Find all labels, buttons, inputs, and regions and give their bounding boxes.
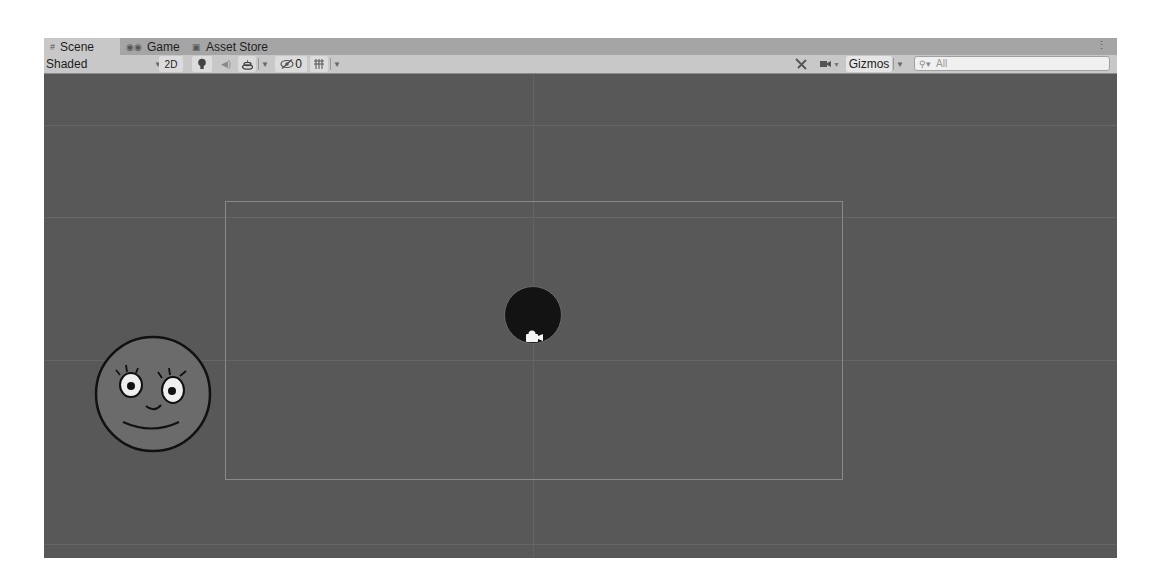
toggle-2d-label: 2D — [165, 59, 178, 70]
grid-line — [44, 125, 1117, 126]
scene-window: # Scene ◉◉ Game ▣ Asset Store ⋮ Shaded ▼… — [44, 38, 1117, 558]
scene-viewport[interactable] — [44, 74, 1117, 558]
gizmos-label: Gizmos — [849, 57, 890, 71]
more-options-icon[interactable]: ⋮ — [1096, 39, 1107, 52]
hidden-objects-toggle[interactable]: 0 — [275, 56, 307, 72]
gizmos-dropdown-icon[interactable]: ▼ — [894, 56, 906, 72]
grid-snap-icon — [313, 58, 325, 70]
audio-toggle[interactable]: ◀) — [216, 56, 236, 72]
tab-scene[interactable]: # Scene — [44, 38, 120, 55]
search-input[interactable]: ⚲▾ All — [914, 56, 1110, 71]
face-sprite[interactable] — [94, 335, 212, 453]
tab-asset-store[interactable]: ▣ Asset Store — [186, 38, 286, 55]
lighting-toggle[interactable] — [192, 56, 212, 72]
chevron-down-icon: ▼ — [833, 61, 840, 68]
speaker-icon: ◀) — [221, 59, 231, 69]
search-icon: ⚲▾ — [919, 59, 931, 69]
tools-icon — [795, 58, 807, 70]
camera-settings-dropdown[interactable]: ▼ — [816, 56, 844, 72]
shading-mode-dropdown[interactable]: Shaded ▼ — [46, 56, 166, 72]
grid-line — [44, 544, 1117, 545]
effects-toggle[interactable] — [238, 56, 256, 72]
gizmos-button[interactable]: Gizmos — [846, 56, 892, 72]
camera-gizmo-icon[interactable] — [523, 330, 545, 344]
tab-game[interactable]: ◉◉ Game — [120, 38, 186, 55]
grid-icon: # — [50, 42, 55, 52]
effects-dropdown-icon[interactable]: ▼ — [260, 56, 270, 72]
gamepad-icon: ◉◉ — [126, 42, 142, 52]
hidden-eye-icon — [280, 59, 294, 69]
scene-toolbar: Shaded ▼ 2D ◀) ▼ 0 ▼ ▼ — [44, 55, 1117, 74]
tab-game-label: Game — [147, 40, 180, 54]
effects-layers-icon — [241, 59, 254, 70]
tab-asset-store-label: Asset Store — [206, 40, 268, 54]
tab-bar: # Scene ◉◉ Game ▣ Asset Store ⋮ — [44, 38, 1117, 55]
tools-button[interactable] — [792, 56, 810, 72]
shading-mode-label: Shaded — [46, 57, 87, 71]
tab-scene-label: Scene — [60, 40, 94, 54]
shopping-bag-icon: ▣ — [192, 42, 201, 52]
camera-icon — [820, 60, 831, 68]
grid-toggle[interactable] — [310, 56, 328, 72]
grid-dropdown-icon[interactable]: ▼ — [332, 56, 342, 72]
toggle-2d-button[interactable]: 2D — [159, 56, 183, 72]
search-placeholder: All — [936, 58, 947, 69]
hidden-count: 0 — [295, 57, 302, 71]
lightbulb-icon — [197, 58, 207, 70]
